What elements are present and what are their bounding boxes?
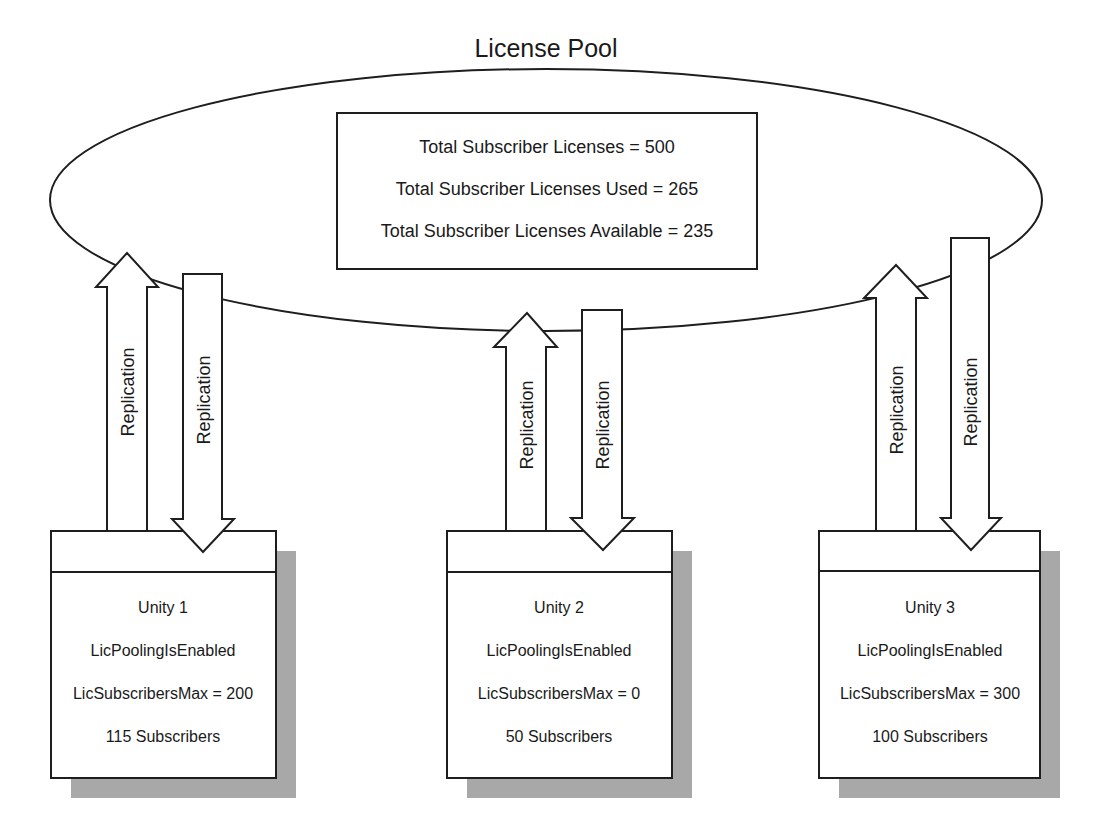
server-subscriber-count: 50 Subscribers [506,728,613,745]
server-max-subscribers: LicSubscribersMax = 0 [478,685,640,702]
server-pooling-flag: LicPoolingIsEnabled [858,642,1003,659]
server-subscriber-count: 100 Subscribers [872,728,988,745]
server-name: Unity 3 [905,599,955,616]
server-pooling-flag: LicPoolingIsEnabled [487,642,632,659]
replication-up-arrow-2: Replication [494,313,557,531]
server-subscriber-count: 115 Subscribers [106,728,220,745]
server-max-subscribers: LicSubscribersMax = 200 [73,685,253,702]
replication-up-arrow-3: Replication [864,265,927,531]
diagram-title: License Pool [474,34,617,62]
replication-label: Replication [194,355,214,444]
replication-down-arrow-1: Replication [172,274,234,552]
replication-label: Replication [887,365,907,454]
replication-up-arrow-1: Replication [96,253,158,531]
pool-summary-box: Total Subscriber Licenses = 500 Total Su… [337,113,757,269]
replication-label: Replication [118,347,138,436]
server-unity-1: Unity 1 LicPoolingIsEnabled LicSubscribe… [51,531,296,798]
total-licenses-text: Total Subscriber Licenses = 500 [419,137,675,157]
replication-down-arrow-3: Replication [941,238,1001,550]
license-pool-diagram: License Pool Total Subscriber Licenses =… [0,0,1101,835]
server-pooling-flag: LicPoolingIsEnabled [91,642,236,659]
server-name: Unity 1 [138,599,188,616]
server-name: Unity 2 [534,599,584,616]
server-unity-3: Unity 3 LicPoolingIsEnabled LicSubscribe… [819,531,1060,798]
server-max-subscribers: LicSubscribersMax = 300 [840,685,1020,702]
used-licenses-text: Total Subscriber Licenses Used = 265 [396,179,699,199]
replication-label: Replication [593,380,613,469]
replication-label: Replication [961,357,981,446]
available-licenses-text: Total Subscriber Licenses Available = 23… [381,221,713,241]
replication-down-arrow-2: Replication [571,310,634,550]
replication-label: Replication [517,380,537,469]
server-unity-2: Unity 2 LicPoolingIsEnabled LicSubscribe… [447,531,692,798]
